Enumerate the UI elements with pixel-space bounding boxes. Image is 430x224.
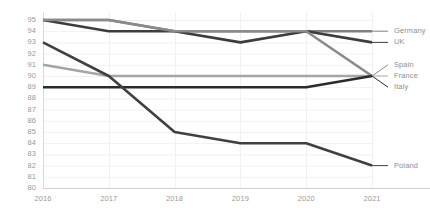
y-tick-label: 80 — [18, 184, 36, 192]
y-tick-label: 94 — [18, 27, 36, 35]
vertical-gridlines — [44, 12, 373, 188]
series-label-france: France — [394, 72, 418, 80]
series-line-poland — [43, 42, 372, 165]
horizontal-gridlines — [43, 21, 372, 189]
chart-plot-area — [0, 0, 430, 224]
series-label-germany: Germany — [394, 27, 426, 35]
y-tick-label: 81 — [18, 173, 36, 181]
leader-line-spain — [372, 65, 388, 76]
x-tick-label: 2019 — [223, 195, 257, 203]
y-tick-label: 82 — [18, 162, 36, 170]
y-tick-label: 93 — [18, 38, 36, 46]
y-tick-label: 92 — [18, 50, 36, 58]
legend-leader-lines — [372, 31, 388, 165]
y-tick-label: 85 — [18, 128, 36, 136]
y-tick-label: 91 — [18, 61, 36, 69]
series-label-uk: UK — [394, 38, 405, 46]
series-label-poland: Poland — [394, 162, 418, 170]
x-tick-label: 2016 — [26, 195, 60, 203]
series-line-italy — [43, 76, 372, 87]
y-tick-label: 88 — [18, 94, 36, 102]
x-tick-label: 2017 — [92, 195, 126, 203]
x-tick-label: 2020 — [289, 195, 323, 203]
y-tick-label: 84 — [18, 139, 36, 147]
leader-line-italy — [372, 76, 388, 87]
y-tick-label: 95 — [18, 16, 36, 24]
x-tick-label: 2021 — [355, 195, 389, 203]
y-tick-label: 89 — [18, 83, 36, 91]
series-label-italy: Italy — [394, 83, 408, 91]
axis-lines — [43, 12, 430, 189]
y-tick-label: 83 — [18, 150, 36, 158]
line-chart: 95949392919089888786858483828180 2016201… — [0, 0, 430, 224]
series-label-spain: Spain — [394, 61, 414, 69]
y-tick-label: 87 — [18, 106, 36, 114]
y-tick-label: 90 — [18, 72, 36, 80]
x-tick-label: 2018 — [158, 195, 192, 203]
y-tick-label: 86 — [18, 117, 36, 125]
